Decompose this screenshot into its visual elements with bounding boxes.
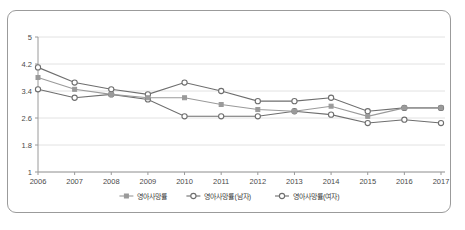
legend-marker-circle bbox=[279, 193, 284, 198]
y-tick-label: 5 bbox=[28, 33, 32, 42]
data-point bbox=[109, 87, 114, 92]
chart-plot-area: 11.82.63.44.2520062007200820092010201120… bbox=[0, 0, 465, 230]
x-tick-label: 2011 bbox=[213, 177, 229, 186]
x-tick-label: 2007 bbox=[66, 177, 83, 186]
data-point bbox=[35, 87, 40, 92]
data-point bbox=[365, 120, 370, 125]
data-point bbox=[109, 92, 113, 96]
data-point bbox=[219, 114, 224, 119]
x-tick-label: 2015 bbox=[359, 177, 376, 186]
data-point bbox=[329, 104, 333, 108]
data-point bbox=[72, 95, 77, 100]
data-point bbox=[328, 112, 333, 117]
data-point bbox=[183, 96, 187, 100]
data-point bbox=[292, 99, 297, 104]
data-point bbox=[182, 80, 187, 85]
x-tick-label: 2010 bbox=[176, 177, 193, 186]
series-line-1 bbox=[38, 67, 441, 111]
x-tick-label: 2006 bbox=[30, 177, 47, 186]
data-point bbox=[366, 114, 370, 118]
x-tick-label: 2017 bbox=[433, 177, 450, 186]
data-point bbox=[182, 114, 187, 119]
line-chart: 11.82.63.44.2520062007200820092010201120… bbox=[0, 0, 465, 230]
legend-label: 영아사망률(여자) bbox=[293, 192, 340, 201]
x-tick-label: 2016 bbox=[396, 177, 413, 186]
data-point bbox=[256, 108, 260, 112]
data-point bbox=[219, 88, 224, 93]
chart-screenshot: 11.82.63.44.2520062007200820092010201120… bbox=[0, 0, 465, 230]
data-point bbox=[402, 106, 406, 110]
data-point bbox=[292, 109, 296, 113]
data-point bbox=[328, 95, 333, 100]
data-point bbox=[35, 65, 40, 70]
data-point bbox=[146, 96, 150, 100]
data-point bbox=[365, 109, 370, 114]
legend-label: 영아사망률 bbox=[137, 192, 168, 201]
x-tick-label: 2012 bbox=[249, 177, 266, 186]
data-point bbox=[439, 106, 443, 110]
data-point bbox=[255, 114, 260, 119]
data-point bbox=[73, 87, 77, 91]
data-point bbox=[402, 117, 407, 122]
x-tick-label: 2014 bbox=[323, 177, 340, 186]
data-point bbox=[255, 99, 260, 104]
y-tick-label: 2.6 bbox=[22, 114, 32, 123]
data-point bbox=[438, 120, 443, 125]
data-point bbox=[219, 103, 223, 107]
y-tick-label: 1.8 bbox=[22, 141, 32, 150]
data-point bbox=[36, 76, 40, 80]
legend-marker-circle bbox=[191, 193, 196, 198]
y-tick-label: 4.2 bbox=[22, 60, 32, 69]
y-tick-label: 1 bbox=[28, 168, 32, 177]
x-tick-label: 2013 bbox=[286, 177, 303, 186]
x-tick-label: 2009 bbox=[140, 177, 157, 186]
y-tick-label: 3.4 bbox=[22, 87, 32, 96]
legend-marker-square bbox=[124, 194, 128, 198]
legend-label: 영아사망률(남자) bbox=[204, 192, 251, 201]
data-point bbox=[72, 80, 77, 85]
x-tick-label: 2008 bbox=[103, 177, 120, 186]
